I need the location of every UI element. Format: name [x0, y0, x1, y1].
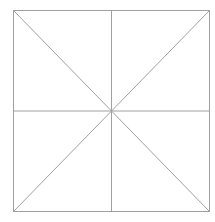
square-diagram: [0, 0, 215, 222]
